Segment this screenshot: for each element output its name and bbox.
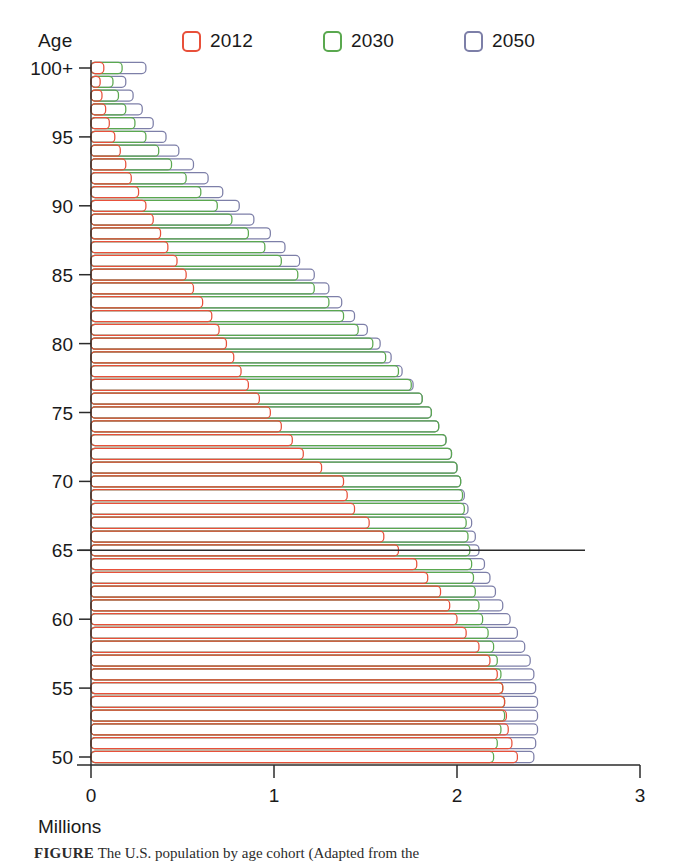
bar-2012-age-68 [91, 503, 355, 514]
bar-2050-age-94 [91, 145, 179, 156]
bar-2012-age-61 [91, 600, 450, 611]
bar-2030-age-50 [91, 751, 494, 762]
y-tick-label-55: 55 [52, 678, 73, 699]
bar-2012-age-76 [91, 393, 259, 404]
bar-2012-age-83 [91, 297, 203, 308]
bar-2050-age-53 [91, 710, 538, 721]
bar-2030-age-57 [91, 655, 497, 666]
bar-2030-age-90 [91, 200, 217, 211]
bar-2012-age-78 [91, 366, 241, 377]
bar-2030-age-79 [91, 352, 386, 363]
bar-2012-age-57 [91, 655, 490, 666]
bar-2050-age-59 [91, 627, 517, 638]
bar-2012-age-77 [91, 379, 248, 390]
bar-2030-age-96 [91, 118, 135, 129]
bar-2012-age-69 [91, 490, 347, 501]
bar-2012-age-66 [91, 531, 384, 542]
y-axis-ticks: 50556065707580859095100+ [30, 58, 91, 768]
bar-2050-age-96 [91, 118, 153, 129]
y-tick-label-50: 50 [52, 747, 73, 768]
bar-2050-age-79 [91, 352, 391, 363]
bar-2012-age-92 [91, 173, 131, 184]
bar-2050-age-73 [91, 435, 446, 446]
bar-2012-age-84 [91, 283, 193, 294]
bar-2050-age-86 [91, 255, 300, 266]
bar-2030-age-91 [91, 187, 201, 198]
bar-2050-age-72 [91, 448, 452, 459]
bar-series-2050 [91, 62, 538, 762]
y-tick-label-75: 75 [52, 403, 73, 424]
bar-2030-age-86 [91, 255, 281, 266]
bar-2030-age-51 [91, 738, 497, 749]
bar-2050-age-52 [91, 724, 538, 735]
bar-2050-age-57 [91, 655, 530, 666]
bar-2030-age-80 [91, 338, 373, 349]
bar-2012-age-97 [91, 104, 106, 115]
bar-2030-age-73 [91, 435, 446, 446]
bar-2030-age-94 [91, 145, 159, 156]
bar-2050-age-54 [91, 696, 538, 707]
bar-2030-age-93 [91, 159, 172, 170]
bar-2012-age-67 [91, 517, 369, 528]
caption-text: The U.S. population by age cohort (Adapt… [98, 845, 420, 861]
bar-2030-age-88 [91, 228, 248, 239]
bar-2030-age-52 [91, 724, 501, 735]
bar-2050-age-89 [91, 214, 254, 225]
bar-2030-age-69 [91, 490, 462, 501]
bar-2030-age-58 [91, 641, 494, 652]
bar-2012-age-96 [91, 118, 109, 129]
y-tick-label-85: 85 [52, 265, 73, 286]
bar-2012-age-86 [91, 255, 177, 266]
bar-2030-age-61 [91, 600, 479, 611]
bar-2050-age-55 [91, 683, 536, 694]
bar-2050-age-63 [91, 572, 490, 583]
bar-2012-age-99 [91, 76, 100, 87]
bar-2012-age-55 [91, 683, 503, 694]
bar-2012-age-64 [91, 559, 417, 570]
bar-2030-age-81 [91, 324, 358, 335]
bar-2030-age-95 [91, 131, 146, 142]
bar-2012-age-74 [91, 421, 281, 432]
bar-2030-age-92 [91, 173, 186, 184]
y-tick-label-100+: 100+ [30, 58, 73, 79]
bar-2030-age-76 [91, 393, 422, 404]
bar-2030-age-97 [91, 104, 126, 115]
bar-2050-age-62 [91, 586, 495, 597]
bar-2012-age-51 [91, 738, 512, 749]
bar-2050-age-58 [91, 641, 525, 652]
bar-2012-age-60 [91, 614, 457, 625]
bar-2050-age-84 [91, 283, 329, 294]
bar-2050-age-99 [91, 76, 126, 87]
bar-2050-age-83 [91, 297, 342, 308]
bar-2012-age-88 [91, 228, 161, 239]
bar-2050-age-97 [91, 104, 142, 115]
bar-2030-age-83 [91, 297, 329, 308]
bar-2030-age-70 [91, 476, 461, 487]
y-tick-label-90: 90 [52, 196, 73, 217]
bar-2030-age-77 [91, 379, 411, 390]
bar-2030-age-87 [91, 242, 265, 253]
bar-2030-age-56 [91, 669, 501, 680]
bar-2050-age-78 [91, 366, 402, 377]
bar-2050-age-69 [91, 490, 464, 501]
bar-2012-age-98 [91, 90, 102, 101]
bar-2012-age-79 [91, 352, 234, 363]
bar-2030-age-53 [91, 710, 505, 721]
bar-2050-age-76 [91, 393, 422, 404]
bar-2012-age-91 [91, 187, 139, 198]
y-tick-label-80: 80 [52, 334, 73, 355]
bar-2012-age-95 [91, 131, 115, 142]
bar-2012-age-56 [91, 669, 497, 680]
bar-2050-age-74 [91, 421, 439, 432]
bar-2050-age-77 [91, 379, 413, 390]
bar-2030-age-66 [91, 531, 468, 542]
bar-2012-age-59 [91, 627, 466, 638]
y-tick-label-60: 60 [52, 609, 73, 630]
bar-2030-age-74 [91, 421, 439, 432]
bar-2050-age-100 [91, 62, 146, 73]
bar-2050-age-91 [91, 187, 223, 198]
bar-2012-age-52 [91, 724, 508, 735]
bar-series-2012 [91, 62, 517, 762]
bar-2030-age-75 [91, 407, 431, 418]
